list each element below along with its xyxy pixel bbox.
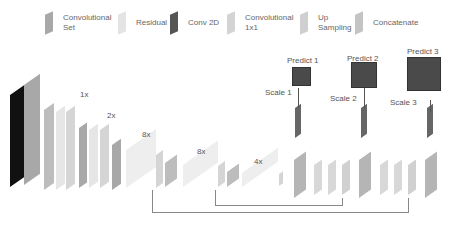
skip-line	[152, 212, 408, 213]
conv-1x1	[380, 159, 388, 195]
residual-block	[100, 124, 109, 188]
concatenate-swatch-icon	[355, 11, 363, 35]
scale-label: Scale 2	[330, 94, 357, 103]
residual-block	[89, 124, 98, 188]
concatenate	[425, 152, 437, 198]
input-image	[10, 85, 24, 187]
prediction-image-3	[407, 57, 441, 91]
skip-line	[215, 190, 216, 205]
conv-layer	[24, 74, 40, 185]
legend-item-convolutional-set: Convolutional Set	[45, 13, 118, 33]
conv-1x1	[314, 159, 322, 195]
arrow-up-icon	[364, 88, 365, 108]
repeat-label: 2x	[107, 111, 115, 120]
scale-label: Scale 3	[390, 98, 417, 107]
predict-label: Predict 1	[287, 56, 319, 65]
conv-1x1	[328, 159, 336, 195]
conv-layer	[165, 155, 177, 187]
conv-1x1	[394, 159, 402, 195]
repeat-label: 8x	[142, 130, 150, 139]
skip-line	[342, 198, 343, 206]
prediction-image-1	[292, 67, 311, 86]
conv1x1-swatch-icon	[227, 11, 235, 35]
legend: Convolutional Set Residual Conv 2D Convo…	[0, 10, 452, 42]
predict-label: Predict 3	[407, 47, 439, 56]
conv-layer	[79, 122, 87, 188]
skip-line	[408, 198, 409, 213]
legend-item-concatenate: Concatenate	[355, 13, 428, 33]
conv-layer	[227, 164, 239, 187]
residual-swatch-icon	[118, 11, 126, 35]
residual-block	[242, 148, 278, 187]
upsampling-swatch-icon	[300, 11, 308, 35]
prediction-image-2	[351, 62, 377, 88]
legend-item-conv1x1: Convolutional 1x1	[227, 13, 300, 33]
conv2d-swatch-icon	[170, 11, 178, 35]
residual-block	[156, 150, 163, 188]
concatenate	[359, 152, 371, 198]
convolutional-set	[294, 152, 306, 198]
conv-layer	[44, 103, 54, 190]
upsampling	[408, 159, 416, 195]
skip-line	[215, 205, 342, 206]
skip-line	[152, 190, 153, 212]
upsampling	[342, 159, 350, 195]
repeat-label: 8x	[197, 147, 205, 156]
residual-block	[218, 161, 225, 187]
legend-item-upsampling: Up Sampling	[300, 13, 358, 33]
convolutional-set-swatch-icon	[45, 11, 53, 35]
residual-block	[279, 171, 283, 186]
residual-block	[66, 106, 75, 190]
arrow-up-icon	[298, 88, 299, 108]
scale-label: Scale 1	[265, 88, 292, 97]
conv2d-head	[361, 104, 367, 138]
predict-label: Predict 2	[347, 54, 379, 63]
repeat-label: 1x	[80, 90, 88, 99]
arrow-up-icon	[430, 100, 431, 112]
conv2d-head	[295, 104, 301, 138]
residual-block	[56, 106, 65, 190]
conv-layer	[112, 139, 121, 190]
residual-block	[126, 129, 156, 188]
repeat-label: 4x	[254, 157, 262, 166]
